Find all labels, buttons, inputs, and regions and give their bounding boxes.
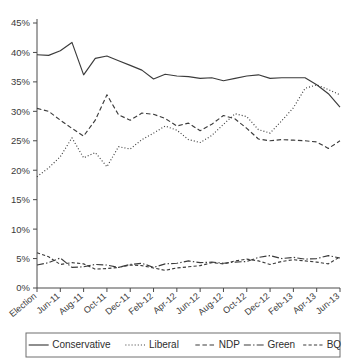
poll-trend-chart: 0%5%10%15%20%25%30%35%40%45% ElectionJun… — [0, 0, 350, 364]
legend-label-bq: BQ — [327, 339, 342, 350]
x-tick-label: Aug-11 — [57, 291, 85, 317]
y-tick-label: 35% — [11, 76, 31, 87]
y-tick-label: 5% — [16, 253, 30, 264]
chart-canvas: 0%5%10%15%20%25%30%35%40%45% ElectionJun… — [0, 0, 350, 364]
y-tick-label: 15% — [11, 194, 31, 205]
chart-legend: ConservativeLiberalNDPGreenBQ — [26, 333, 341, 357]
x-tick-label: Oct-11 — [82, 291, 109, 316]
y-tick-label: 30% — [11, 106, 31, 117]
series-lines — [37, 42, 340, 270]
y-axis-tick-marks — [33, 23, 37, 288]
x-tick-label: Dec-11 — [103, 291, 131, 317]
series-line-green — [37, 256, 340, 268]
x-tick-label: Dec-12 — [243, 291, 272, 317]
y-tick-label: 45% — [11, 17, 31, 28]
series-line-bq — [37, 253, 340, 271]
x-tick-label: Election — [7, 291, 38, 319]
y-tick-label: 10% — [11, 224, 31, 235]
series-line-conservative — [37, 42, 340, 107]
x-tick-label: Jun-11 — [35, 291, 62, 316]
legend-label-green: Green — [267, 339, 295, 350]
axis-frame — [37, 19, 340, 288]
legend-label-liberal: Liberal — [149, 339, 179, 350]
y-tick-label: 40% — [11, 47, 31, 58]
x-tick-label: Apr-13 — [291, 291, 318, 316]
x-tick-label: Jun-13 — [314, 291, 342, 316]
x-axis-tick-labels: ElectionJun-11Aug-11Oct-11Dec-11Feb-12Ap… — [7, 291, 341, 319]
y-tick-label: 25% — [11, 135, 31, 146]
y-tick-label: 0% — [16, 282, 30, 293]
x-tick-label: Feb-12 — [127, 291, 155, 317]
y-axis-tick-labels: 0%5%10%15%20%25%30%35%40%45% — [11, 17, 31, 293]
series-line-ndp — [37, 95, 340, 149]
x-tick-label: Apr-12 — [151, 291, 178, 316]
y-tick-label: 20% — [11, 165, 31, 176]
x-tick-label: Feb-13 — [266, 291, 294, 317]
legend-label-conservative: Conservative — [52, 339, 111, 350]
legend-label-ndp: NDP — [219, 339, 240, 350]
x-axis-tick-marks — [37, 288, 340, 292]
x-tick-label: Aug-12 — [196, 291, 225, 317]
series-line-liberal — [37, 85, 340, 177]
